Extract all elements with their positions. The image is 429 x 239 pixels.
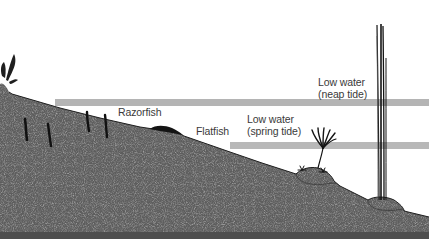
spring-tide-label: Low water (spring tide): [247, 113, 301, 137]
shore-diagram: [0, 0, 429, 239]
neap-tide-label: Low water (neap tide): [318, 76, 367, 100]
anemone-icon: [298, 128, 336, 172]
neap-tide-label-line2: (neap tide): [318, 88, 367, 100]
shore-ground: [0, 83, 429, 239]
razorfish-label-text: Razorfish: [118, 106, 161, 118]
flatfish-label-text: Flatfish: [196, 125, 229, 137]
flatfish-label: Flatfish: [196, 125, 229, 137]
neap-tide-label-line1: Low water: [318, 76, 367, 88]
seaweed-icon: [1, 54, 18, 84]
spring-tide-label-line2: (spring tide): [247, 125, 301, 137]
kelp-icon: [377, 24, 386, 200]
razorfish-label: Razorfish: [118, 106, 161, 118]
neap-tide-band: [55, 99, 429, 106]
spring-tide-label-line1: Low water: [247, 113, 301, 125]
